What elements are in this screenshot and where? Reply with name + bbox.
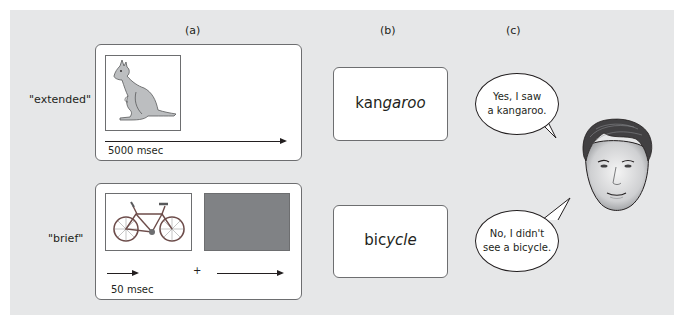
duration-label: 50 msec [111,284,154,295]
column-header-b: (b) [380,24,396,37]
mask-arrow [217,273,282,274]
speech-bubble-no: No, I didn'tsee a bicycle. [475,210,559,272]
column-header-a: (a) [185,24,200,37]
word-text: bicycle [334,231,447,249]
row-label-extended: "extended" [29,93,91,106]
timeline-arrow [105,141,285,142]
word-card-kangaroo: kangaroo [333,67,448,141]
mask-rectangle [204,193,290,251]
column-header-c: (c) [506,24,521,37]
stimulus-arrow [107,273,137,274]
stimulus-card-brief: + 50 msec [95,183,302,300]
stimulus-card-extended: 5000 msec [95,44,302,161]
speech-bubble-yes: Yes, I sawa kangaroo. [475,73,559,135]
duration-label: 5000 msec [108,145,163,156]
participant-face-icon [576,117,658,217]
row-label-brief: "brief" [48,232,83,245]
bicycle-picture [105,193,192,251]
word-card-bicycle: bicycle [333,205,448,278]
word-text: kangaroo [334,94,447,112]
bicycle-icon [106,194,191,250]
fixation-plus: + [193,265,201,276]
kangaroo-picture [105,55,181,131]
kangaroo-icon [106,56,180,130]
